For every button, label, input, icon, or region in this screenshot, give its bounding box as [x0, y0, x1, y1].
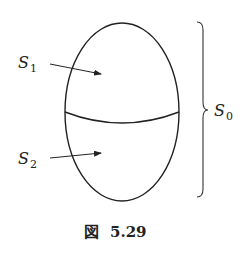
svg-text:S: S: [214, 101, 225, 120]
label-s2: S 2: [18, 149, 37, 171]
svg-text:図: 図: [84, 223, 99, 241]
svg-text:S: S: [18, 149, 29, 168]
svg-text:2: 2: [30, 158, 37, 171]
label-s1: S 1: [18, 53, 37, 75]
figure-caption: 図 5.29: [84, 223, 147, 241]
surface-outline: [65, 23, 179, 201]
svg-text:5.29: 5.29: [110, 223, 147, 241]
svg-text:1: 1: [30, 62, 37, 75]
curly-brace: [197, 22, 208, 197]
svg-text:S: S: [18, 53, 29, 72]
arrow-s1: [50, 64, 101, 74]
figure-canvas: S 1 S 2 S 0 図 5.29: [0, 0, 248, 253]
dividing-curve: [65, 112, 179, 123]
svg-text:0: 0: [226, 110, 233, 123]
arrow-s2: [50, 153, 101, 158]
label-s0: S 0: [214, 101, 233, 123]
